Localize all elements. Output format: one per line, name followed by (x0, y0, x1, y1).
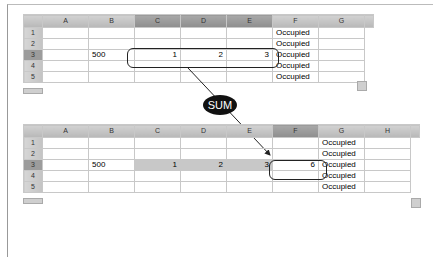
row-header[interactable]: 3 (24, 160, 43, 171)
cell[interactable] (89, 149, 135, 160)
cell[interactable] (181, 182, 227, 193)
cell[interactable] (227, 182, 273, 193)
column-header-e[interactable]: E (227, 125, 273, 138)
cell[interactable]: 1 (135, 160, 181, 171)
cell[interactable]: 3 (227, 160, 273, 171)
resize-handle[interactable] (411, 198, 421, 208)
table-row: 1 Occupied (24, 138, 420, 149)
result-callout-bottom (269, 160, 327, 180)
table-row: 4 Occupied (24, 171, 420, 182)
column-header-row: A B C D E F G H (24, 125, 420, 138)
cell[interactable] (43, 138, 89, 149)
table-row: 5 Occupied (24, 182, 420, 193)
cell[interactable] (365, 160, 411, 171)
select-all-corner[interactable] (24, 125, 43, 138)
row-header[interactable]: 4 (24, 171, 43, 182)
cell[interactable] (43, 182, 89, 193)
row-header[interactable]: 1 (24, 138, 43, 149)
cell[interactable] (89, 182, 135, 193)
cell[interactable] (365, 149, 411, 160)
cell[interactable] (135, 182, 181, 193)
cell[interactable] (273, 149, 319, 160)
cell[interactable] (43, 149, 89, 160)
cell[interactable] (89, 138, 135, 149)
cell[interactable] (181, 138, 227, 149)
row-add-handle[interactable] (23, 198, 43, 204)
cell[interactable] (135, 138, 181, 149)
row-header[interactable]: 2 (24, 149, 43, 160)
cell[interactable]: Occupied (319, 149, 365, 160)
row-header[interactable]: 5 (24, 182, 43, 193)
cell[interactable] (365, 138, 411, 149)
cell[interactable] (227, 171, 273, 182)
table-row: 3 500 1 2 3 6 Occupied (24, 160, 420, 171)
cell[interactable]: 500 (89, 160, 135, 171)
column-header-b[interactable]: B (89, 125, 135, 138)
column-header-f[interactable]: F (273, 125, 319, 138)
cell[interactable] (135, 149, 181, 160)
column-add-handle[interactable] (411, 125, 420, 138)
column-header-d[interactable]: D (181, 125, 227, 138)
cell[interactable]: Occupied (319, 138, 365, 149)
column-header-c[interactable]: C (135, 125, 181, 138)
column-header-g[interactable]: G (319, 125, 365, 138)
cell[interactable] (227, 138, 273, 149)
cell[interactable] (89, 171, 135, 182)
cell[interactable] (43, 160, 89, 171)
column-header-h[interactable]: H (365, 125, 411, 138)
cell[interactable] (273, 138, 319, 149)
cell[interactable] (43, 171, 89, 182)
cell[interactable]: Occupied (319, 182, 365, 193)
sum-label: SUM (203, 95, 237, 115)
cell[interactable] (227, 149, 273, 160)
column-header-a[interactable]: A (43, 125, 89, 138)
cell[interactable] (365, 171, 411, 182)
cell[interactable] (135, 171, 181, 182)
bottom-spreadsheet: A B C D E F G H 1 Occupied 2 Occupied 3 … (23, 124, 420, 193)
cell[interactable] (365, 182, 411, 193)
table-row: 2 Occupied (24, 149, 420, 160)
cell[interactable]: 2 (181, 160, 227, 171)
cell[interactable] (273, 182, 319, 193)
cell[interactable] (181, 149, 227, 160)
cell[interactable] (181, 171, 227, 182)
